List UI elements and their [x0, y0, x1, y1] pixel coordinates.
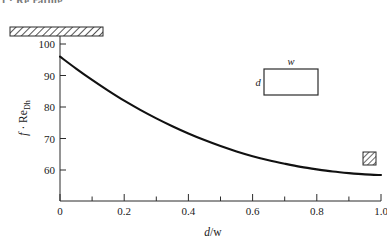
- y-tick-label: 100: [39, 38, 56, 50]
- duct-rectangle: [264, 69, 318, 95]
- x-axis-title: d/w: [204, 226, 222, 238]
- duct-depth-label: d: [255, 77, 261, 88]
- y-axis-title-symbol2: Re: [17, 110, 29, 123]
- x-tick-label: 0.8: [310, 205, 324, 217]
- duct-cross-section-inset: w d: [255, 56, 318, 95]
- y-tick-label: 60: [44, 164, 56, 176]
- y-axis-title-subscript: Dh: [23, 100, 32, 110]
- data-curve-main: [60, 57, 381, 175]
- parallel-plates-marker: [10, 27, 103, 36]
- y-tick-group: [60, 44, 66, 170]
- figure-canvas: f · Re rating 100 90: [0, 0, 387, 244]
- x-tick-labels: 0 0.2 0.4 0.6 0.8 1.0: [57, 205, 387, 217]
- square-duct-marker: [363, 152, 376, 165]
- chart-plot: 100 90 80 70 60 0 0.2 0.4 0.6: [0, 0, 387, 244]
- x-tick-label: 0.4: [182, 205, 196, 217]
- x-tick-label: 0.6: [246, 205, 260, 217]
- x-axis-title-denominator: w: [213, 226, 222, 238]
- x-tick-label: 0.2: [117, 205, 131, 217]
- y-tick-label: 80: [44, 101, 56, 113]
- y-tick-label: 90: [44, 70, 56, 82]
- svg-text:f · ReDh: f · ReDh: [17, 100, 32, 135]
- y-tick-label: 70: [44, 133, 56, 145]
- x-minor-tick-group: [92, 197, 349, 202]
- y-tick-labels: 100 90 80 70 60: [39, 38, 56, 176]
- y-axis-title: f · ReDh: [17, 100, 32, 135]
- x-tick-label: 1.0: [374, 205, 387, 217]
- svg-text:d/w: d/w: [204, 226, 222, 238]
- duct-width-label: w: [287, 56, 294, 67]
- x-tick-label: 0: [57, 205, 63, 217]
